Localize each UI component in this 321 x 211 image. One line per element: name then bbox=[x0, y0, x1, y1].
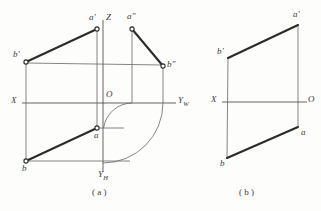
label-origin-panel-b: O bbox=[308, 95, 315, 104]
segment-bprime-aprime bbox=[26, 29, 97, 62]
label-a-prime-panel-b: a' bbox=[293, 10, 300, 19]
panel-b-geometry bbox=[222, 25, 307, 158]
arc-outer-yw-to-yh bbox=[103, 103, 163, 163]
label-axis-yw-subscript: W bbox=[183, 100, 188, 107]
node-b-prime bbox=[24, 60, 28, 64]
panel-a-geometry bbox=[22, 20, 176, 172]
label-axis-yh-subscript: H bbox=[103, 174, 108, 181]
figure-root: a' Z a" b' b" X O YW a b YH ( a ) a' b' … bbox=[0, 0, 321, 211]
projector-horizontal-bprime-bdoubleprime bbox=[26, 63, 163, 65]
label-b-double-prime-panel-a: b" bbox=[167, 60, 176, 69]
label-axis-yw-panel-a: YW bbox=[178, 96, 189, 107]
segment-adoubleprime-bdoubleprime bbox=[132, 29, 163, 66]
figure-canvas bbox=[0, 0, 321, 211]
panel-b-projector-vertical-b bbox=[227, 58, 228, 158]
label-a-plain-panel-b: a bbox=[301, 128, 306, 137]
node-a-double-prime bbox=[130, 27, 134, 31]
label-a-double-prime-panel-a: a" bbox=[127, 12, 136, 21]
panel-b-segment-bprime-aprime bbox=[228, 25, 298, 58]
node-a-prime bbox=[95, 27, 99, 31]
panel-b-segment-b-a bbox=[227, 127, 298, 158]
label-b-prime-panel-a: b' bbox=[13, 50, 20, 59]
segment-b-a bbox=[26, 128, 97, 161]
label-b-plain-panel-a: b bbox=[22, 164, 27, 173]
label-axis-x-panel-b: X bbox=[211, 95, 217, 104]
label-axis-z-panel-a: Z bbox=[106, 13, 111, 22]
label-axis-yh-panel-a: YH bbox=[98, 170, 108, 181]
label-b-prime-panel-b: b' bbox=[217, 47, 224, 56]
label-axis-x-panel-a: X bbox=[11, 96, 17, 105]
caption-panel-b: ( b ) bbox=[239, 188, 254, 197]
node-b-double-prime bbox=[161, 64, 165, 68]
label-a-prime-panel-a: a' bbox=[89, 13, 96, 22]
label-a-plain-panel-a: a bbox=[94, 131, 99, 140]
arc-inner-yw-to-yh bbox=[104, 103, 132, 128]
label-origin-panel-a: O bbox=[106, 90, 113, 99]
label-b-plain-panel-b: b bbox=[220, 159, 225, 168]
caption-panel-a: ( a ) bbox=[92, 188, 107, 197]
